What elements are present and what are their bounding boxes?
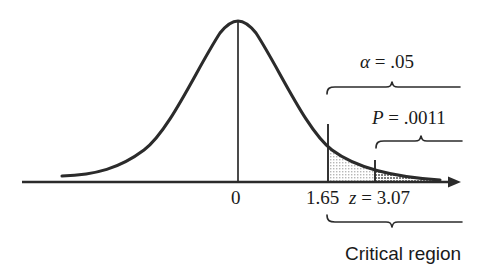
x-axis-arrowhead bbox=[448, 177, 461, 188]
normal-curve bbox=[62, 21, 440, 180]
alpha-brace bbox=[327, 82, 460, 94]
p-symbol: P bbox=[372, 107, 384, 128]
critical-region-label: Critical region bbox=[345, 244, 461, 263]
distribution-plot bbox=[0, 0, 479, 277]
p-value-number: .0011 bbox=[404, 107, 446, 128]
z-statistic-label: z = 3.07 bbox=[349, 188, 410, 207]
p-value-brace bbox=[376, 136, 462, 148]
normal-distribution-figure: α = .05 P = .0011 0 1.65 z = 3.07 Critic… bbox=[0, 0, 479, 277]
alpha-symbol: α bbox=[360, 51, 370, 72]
alpha-label: α = .05 bbox=[360, 52, 414, 71]
tick-label-zero: 0 bbox=[231, 188, 241, 207]
p-value-label: P = .0011 bbox=[372, 108, 446, 127]
alpha-value: .05 bbox=[390, 51, 414, 72]
z-equals: = bbox=[356, 187, 376, 208]
alpha-shaded-region bbox=[328, 60, 375, 182]
z-value: 3.07 bbox=[377, 187, 410, 208]
tick-label-critical-value: 1.65 bbox=[306, 188, 339, 207]
critical-region-brace bbox=[327, 215, 462, 227]
alpha-equals: = bbox=[370, 51, 390, 72]
p-equals: = bbox=[384, 107, 404, 128]
